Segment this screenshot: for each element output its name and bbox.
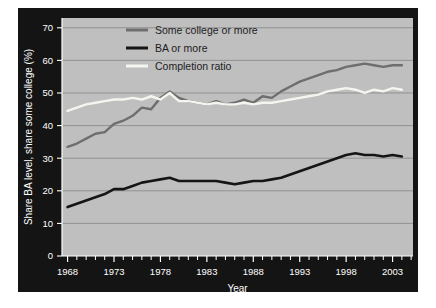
ytick-label-70: 70 (42, 22, 53, 33)
ytick-label-30: 30 (42, 153, 53, 164)
xtick-label-2003: 2003 (382, 266, 403, 277)
ytick-label-60: 60 (42, 55, 53, 66)
xtick-label-1968: 1968 (57, 266, 78, 277)
ytick-label-0: 0 (48, 250, 53, 261)
ytick-label-50: 50 (42, 87, 53, 98)
chart-figure: 0102030405060701968197319781983198819931… (0, 0, 436, 308)
plot-area-background (62, 18, 413, 256)
ytick-label-40: 40 (42, 120, 53, 131)
legend-label-2: Completion ratio (155, 60, 232, 72)
xtick-label-1998: 1998 (336, 266, 357, 277)
xtick-label-1993: 1993 (289, 266, 310, 277)
ytick-label-10: 10 (42, 218, 53, 229)
xtick-label-1973: 1973 (103, 266, 124, 277)
chart-panel: 0102030405060701968197319781983198819931… (18, 8, 418, 292)
legend-label-1: BA or more (155, 42, 208, 54)
ytick-label-20: 20 (42, 185, 53, 196)
y-axis-title: Share BA level, share some college (%) (23, 49, 34, 225)
xtick-label-1983: 1983 (196, 266, 217, 277)
chart-svg: 0102030405060701968197319781983198819931… (18, 8, 418, 292)
xtick-label-1988: 1988 (243, 266, 264, 277)
xtick-label-1978: 1978 (150, 266, 171, 277)
legend-label-0: Some college or more (155, 24, 258, 36)
x-axis-title: Year (227, 283, 248, 292)
